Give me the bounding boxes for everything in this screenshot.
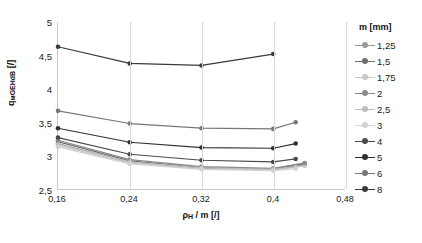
legend-item[interactable]: 2 [355, 85, 421, 101]
data-point [56, 44, 61, 49]
data-point [302, 161, 307, 166]
chart-container: qмGEHdB [/] 2,533,544,55 0,160,240,320,4… [0, 0, 422, 243]
data-series [56, 44, 276, 67]
data-series [56, 109, 298, 132]
legend-marker-icon [355, 136, 375, 146]
legend-item-label: 1,5 [377, 56, 390, 67]
gridline-vertical [202, 22, 203, 189]
legend-marker-icon [355, 120, 375, 130]
data-series [56, 126, 298, 151]
y-axis-tick-label: 4 [47, 84, 52, 95]
legend-dot [362, 58, 368, 64]
data-point [293, 157, 298, 162]
legend-item[interactable]: 5 [355, 149, 421, 165]
x-axis-tick-label: 0,32 [192, 194, 210, 204]
legend-item[interactable]: 4 [355, 133, 421, 149]
legend-items: 1,251,51,7522,534568 [355, 37, 421, 197]
gridline-vertical [274, 22, 275, 189]
legend-dot [362, 186, 368, 192]
legend-item-label: 2,5 [377, 104, 390, 115]
data-point [293, 120, 298, 125]
legend-item[interactable]: 6 [355, 165, 421, 181]
legend-item-label: 1,75 [377, 72, 396, 83]
data-point [56, 135, 61, 140]
legend-marker-icon [355, 152, 375, 162]
data-point [56, 145, 61, 150]
series-line [58, 47, 273, 66]
legend-item-label: 2 [377, 88, 382, 99]
legend-dot [362, 42, 368, 48]
legend-item-label: 6 [377, 168, 382, 179]
legend-dot [362, 106, 368, 112]
y-axis-tick-label: 4,5 [39, 50, 52, 61]
legend-marker-icon [355, 104, 375, 114]
legend-marker-icon [355, 88, 375, 98]
x-axis-title-rest: / m [/] [193, 210, 220, 220]
legend-dot [362, 170, 368, 176]
data-point [56, 109, 61, 114]
y-axis-tick-label: 3 [47, 151, 52, 162]
x-axis-tick-label: 0,16 [48, 194, 66, 204]
legend-item[interactable]: 2,5 [355, 101, 421, 117]
legend-marker-icon [355, 184, 375, 194]
legend-title: m [mm] [359, 22, 421, 32]
data-point [56, 126, 61, 131]
legend-dot [362, 154, 368, 160]
legend-marker-icon [355, 56, 375, 66]
data-point [293, 166, 298, 171]
legend-item[interactable]: 1,5 [355, 53, 421, 69]
legend-dot [362, 122, 368, 128]
x-axis-tick-label: 0,4 [267, 194, 280, 204]
x-axis-tick-label: 0,48 [336, 194, 354, 204]
legend-item[interactable]: 3 [355, 117, 421, 133]
series-line [58, 111, 296, 129]
legend-item[interactable]: 1,75 [355, 69, 421, 85]
legend: m [mm] 1,251,51,7522,534568 [355, 22, 421, 197]
y-axis-tick-label: 3,5 [39, 117, 52, 128]
legend-item-label: 1,25 [377, 40, 396, 51]
legend-item[interactable]: 1,25 [355, 37, 421, 53]
y-axis-tick-label: 5 [47, 17, 52, 28]
legend-item-label: 4 [377, 136, 382, 147]
plot-area [57, 22, 345, 190]
data-point [293, 141, 298, 146]
legend-marker-icon [355, 40, 375, 50]
legend-item-label: 8 [377, 184, 382, 195]
legend-dot [362, 74, 368, 80]
legend-item-label: 3 [377, 120, 382, 131]
legend-dot [362, 90, 368, 96]
legend-item[interactable]: 8 [355, 181, 421, 197]
x-axis-title: ρH / m [/] [57, 210, 345, 220]
legend-marker-icon [355, 168, 375, 178]
legend-marker-icon [355, 72, 375, 82]
x-axis-tick-label: 0,24 [120, 194, 138, 204]
gridline-vertical [130, 22, 131, 189]
series-line [58, 128, 296, 148]
gridline-vertical [346, 22, 347, 189]
legend-item-label: 5 [377, 152, 382, 163]
legend-dot [362, 138, 368, 144]
